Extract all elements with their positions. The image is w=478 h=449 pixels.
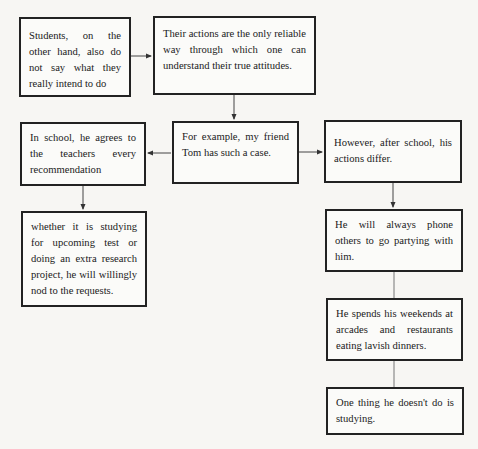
node-weekends-arcades: He spends his weekends at arcades and re… bbox=[326, 298, 463, 361]
node-text: whether it is studying for upcoming test… bbox=[31, 219, 137, 299]
node-text: One thing he doesn't do is studying. bbox=[336, 395, 454, 427]
node-text: He will always phone others to go partyi… bbox=[335, 217, 453, 265]
node-text: Their actions are the only reliable way … bbox=[163, 26, 306, 74]
node-after-school-differ: However, after school, his actions diffe… bbox=[324, 120, 462, 183]
node-actions-reliable-way: Their actions are the only reliable way … bbox=[153, 16, 316, 95]
node-not-studying: One thing he doesn't do is studying. bbox=[326, 387, 464, 435]
node-text: He spends his weekends at arcades and re… bbox=[336, 306, 453, 354]
node-phone-others-partying: He will always phone others to go partyi… bbox=[325, 209, 463, 272]
node-willingly-nod: whether it is studying for upcoming test… bbox=[21, 211, 147, 307]
node-text: Students, on the other hand, also do not… bbox=[29, 28, 121, 92]
node-for-example-tom: For example, my friend Tom has such a ca… bbox=[172, 121, 299, 184]
node-students-do-not-say: Students, on the other hand, also do not… bbox=[19, 17, 131, 97]
node-in-school-agrees: In school, he agrees to the teachers eve… bbox=[20, 122, 146, 186]
node-text: In school, he agrees to the teachers eve… bbox=[30, 130, 136, 178]
node-text: However, after school, his actions diffe… bbox=[334, 135, 452, 167]
node-text: For example, my friend Tom has such a ca… bbox=[182, 129, 289, 161]
